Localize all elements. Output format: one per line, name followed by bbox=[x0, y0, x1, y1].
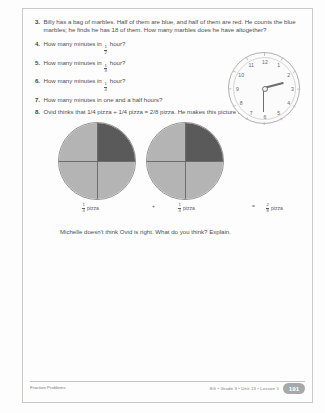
question-suffix: hour? bbox=[110, 59, 126, 66]
clock-numeral-4: 4 bbox=[285, 99, 293, 107]
clock-tick bbox=[246, 117, 248, 120]
unit-label: pizza bbox=[87, 205, 99, 211]
clock-tick bbox=[264, 53, 265, 56]
clock-numeral-6: 6 bbox=[261, 113, 269, 121]
clock-tick bbox=[228, 89, 231, 90]
footer-breadcrumb: SG • Grade 3 • Unit 13 • Lesson 5 bbox=[210, 386, 279, 391]
fraction-one-fourth: 1 4 bbox=[82, 203, 85, 213]
pizza-two bbox=[146, 122, 224, 200]
pizza-quadrant-bottom-right bbox=[185, 161, 223, 199]
operator-plus: + bbox=[152, 203, 155, 209]
fraction-denominator: 4 bbox=[178, 208, 181, 214]
clock-tick bbox=[233, 71, 236, 73]
question-suffix: hour? bbox=[110, 77, 126, 84]
operator-equals: = bbox=[252, 203, 255, 209]
fraction-denominator: 2 bbox=[104, 50, 107, 56]
pizza-horizontal-divider bbox=[147, 161, 223, 162]
clock-illustration: 121234567891011 bbox=[228, 52, 300, 124]
fraction-denominator: 3 bbox=[104, 68, 107, 74]
clock-numeral-9: 9 bbox=[234, 85, 242, 93]
pizza-quadrant-top-right bbox=[97, 123, 135, 161]
clock-numeral-7: 7 bbox=[247, 109, 255, 117]
equation-result: 2 8 pizza bbox=[266, 203, 283, 213]
fraction-one-third: 1 3 bbox=[104, 64, 107, 74]
clock-numeral-1: 1 bbox=[275, 61, 283, 69]
pizza-quadrant-bottom-left bbox=[147, 161, 185, 199]
clock-tick bbox=[281, 117, 283, 120]
question-number: 7. bbox=[30, 96, 44, 104]
question-text: Billy has a bag of marbles. Half of them… bbox=[44, 18, 299, 35]
page-footer: Fraction Problems SG • Grade 3 • Unit 13… bbox=[30, 384, 305, 396]
fraction-one-fourth: 1 4 bbox=[104, 82, 107, 92]
pizza-quadrant-top-left bbox=[59, 123, 97, 161]
pizza-quadrant-top-left bbox=[147, 123, 185, 161]
question-suffix: hour? bbox=[110, 40, 126, 47]
clock-tick bbox=[281, 58, 283, 61]
clock-tick bbox=[297, 89, 300, 90]
question-number: 8. bbox=[30, 108, 44, 116]
pizza-quadrant-bottom-left bbox=[59, 161, 97, 199]
clock-numeral-2: 2 bbox=[285, 71, 293, 79]
pizza-quadrant-top-right bbox=[185, 123, 223, 161]
clock-numeral-8: 8 bbox=[237, 99, 245, 107]
question-prefix: How many minutes in bbox=[44, 77, 102, 84]
unit-label: pizza bbox=[183, 205, 195, 211]
clock-face: 121234567891011 bbox=[228, 52, 300, 124]
pizza-quadrant-bottom-right bbox=[97, 161, 135, 199]
pizza-horizontal-divider bbox=[59, 161, 135, 162]
equation-term-2: 1 4 pizza bbox=[178, 203, 195, 213]
clock-numeral-11: 11 bbox=[247, 61, 255, 69]
fraction-one-fourth: 1 4 bbox=[178, 203, 181, 213]
question-number: 5. bbox=[30, 59, 44, 67]
clock-tick bbox=[293, 71, 296, 73]
clock-numeral-3: 3 bbox=[289, 85, 297, 93]
question-number: 6. bbox=[30, 77, 44, 85]
page-number-badge: 191 bbox=[283, 383, 305, 394]
clock-numeral-10: 10 bbox=[237, 71, 245, 79]
clock-numeral-5: 5 bbox=[275, 109, 283, 117]
pizza-one bbox=[58, 122, 136, 200]
question-prefix: How many minutes in bbox=[44, 40, 102, 47]
fraction-one-half: 1 2 bbox=[104, 45, 107, 55]
equation-term-1: 1 4 pizza bbox=[82, 203, 99, 213]
question-number: 3. bbox=[30, 18, 44, 26]
clock-tick bbox=[246, 58, 248, 61]
closing-prompt: Michelle doesn't think Ovid is right. Wh… bbox=[60, 228, 300, 236]
fraction-denominator: 4 bbox=[82, 208, 85, 214]
clock-tick bbox=[293, 105, 296, 107]
question-3: 3. Billy has a bag of marbles. Half of t… bbox=[30, 18, 298, 35]
unit-label: pizza bbox=[271, 205, 283, 211]
question-prefix: How many minutes in bbox=[44, 59, 102, 66]
fraction-two-eighths: 2 8 bbox=[266, 203, 269, 213]
equation-labels: 1 4 pizza + 1 4 pizza = 2 8 pizza bbox=[30, 203, 298, 217]
footer-divider bbox=[30, 381, 305, 382]
worksheet-page: 3. Billy has a bag of marbles. Half of t… bbox=[0, 0, 325, 413]
clock-tick bbox=[233, 105, 236, 107]
fraction-denominator: 8 bbox=[266, 208, 269, 214]
clock-numeral-12: 12 bbox=[261, 58, 269, 66]
footer-title: Fraction Problems bbox=[30, 385, 66, 390]
fraction-denominator: 4 bbox=[104, 87, 107, 93]
question-number: 4. bbox=[30, 40, 44, 48]
